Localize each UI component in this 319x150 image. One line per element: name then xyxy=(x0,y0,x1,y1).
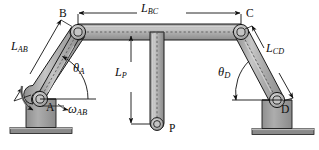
dimension-label-lbc: LBC xyxy=(141,2,158,16)
joint-label-b: B xyxy=(59,8,67,20)
angle-arc-d xyxy=(236,61,249,100)
mechanism-diagram xyxy=(0,0,319,150)
joint-b xyxy=(70,24,85,39)
floor-right xyxy=(252,129,314,135)
joint-p xyxy=(151,118,164,131)
joint-label-d: D xyxy=(281,104,289,116)
dimension-label-lcd: LCD xyxy=(266,42,284,56)
omega-arc-right xyxy=(58,104,68,110)
ext-line-ab-b xyxy=(61,20,72,27)
joint-label-p: P xyxy=(169,123,175,135)
joint-label-c: C xyxy=(246,8,254,20)
joint-label-a: A xyxy=(46,102,54,114)
dimension-label-lp: LP xyxy=(115,66,127,80)
joint-c xyxy=(233,24,248,39)
angle-label-theta-a: θA xyxy=(73,62,84,75)
dimension-lp xyxy=(131,36,150,124)
figure-canvas: B C A D P LAB LBC LCD LP θA θD ωAB xyxy=(0,0,319,150)
angular-velocity-label-omega-ab: ωAB xyxy=(68,103,87,116)
angle-label-theta-d: θD xyxy=(218,66,230,79)
dimension-label-lab: LAB xyxy=(11,40,28,54)
floor-left xyxy=(10,128,72,134)
dimension-lbc xyxy=(78,13,241,25)
